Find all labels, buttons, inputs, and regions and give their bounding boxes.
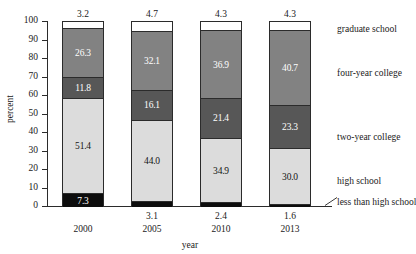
- x-axis-label-2000: 2000: [55, 224, 111, 234]
- y-axis-tick-label: 80: [14, 53, 38, 63]
- segment-two-year-college[interactable]: 23.3: [270, 105, 310, 148]
- y-axis-tick-label: 50: [14, 109, 38, 119]
- segment-two-year-college[interactable]: 11.8: [63, 77, 103, 99]
- segment-value-label: 40.7: [282, 63, 298, 73]
- bar-2000[interactable]: 26.311.851.47.3: [62, 21, 104, 206]
- bar-top-value-2010: 4.3: [200, 9, 242, 19]
- bar-bottom-value-2010: 2.4: [193, 211, 249, 221]
- segment-high-school[interactable]: 44.0: [132, 120, 172, 201]
- bar-top-value-2005: 4.7: [131, 9, 173, 19]
- segment-value-label: 30.0: [282, 172, 298, 182]
- y-axis-tick-label: 10: [14, 183, 38, 193]
- y-axis-tick-label: 100: [14, 16, 38, 26]
- segment-high-school[interactable]: 30.0: [270, 148, 310, 204]
- segment-value-label: 32.1: [144, 56, 160, 66]
- y-axis-tick: [42, 132, 48, 133]
- x-axis-label-2010: 2010: [193, 224, 249, 234]
- y-axis-tick-label: 30: [14, 146, 38, 156]
- y-axis-tick: [42, 21, 48, 22]
- segment-value-label: 7.3: [77, 196, 88, 206]
- bar-2010[interactable]: 36.921.434.9: [200, 21, 242, 206]
- segment-value-label: 23.3: [282, 122, 298, 132]
- segment-four-year-college[interactable]: 32.1: [132, 31, 172, 90]
- y-axis-tick-label: 0: [14, 201, 38, 211]
- y-axis-tick: [42, 188, 48, 189]
- y-axis-tick: [42, 151, 48, 152]
- segment-value-label: 16.1: [144, 100, 160, 110]
- x-axis-label-2005: 2005: [124, 224, 180, 234]
- y-axis-tick-label: 90: [14, 35, 38, 45]
- segment-four-year-college[interactable]: 26.3: [63, 28, 103, 77]
- y-axis-tick-label: 60: [14, 90, 38, 100]
- segment-high-school[interactable]: 51.4: [63, 98, 103, 193]
- chart-title: [70, 0, 320, 1]
- segment-two-year-college[interactable]: 16.1: [132, 90, 172, 120]
- segment-value-label: 51.4: [75, 141, 91, 151]
- category-label-high-school: high school: [337, 176, 381, 187]
- category-label-less-than-high-school: less than high school: [337, 197, 416, 208]
- y-axis-tick: [42, 40, 48, 41]
- segment-value-label: 34.9: [213, 166, 229, 176]
- bar-top-value-2013: 4.3: [269, 9, 311, 19]
- segment-value-label: 36.9: [213, 60, 229, 70]
- y-axis-tick: [42, 169, 48, 170]
- y-axis-tick: [42, 77, 48, 78]
- y-axis-tick: [42, 58, 48, 59]
- segment-less-than-high-school[interactable]: [132, 201, 172, 207]
- segment-value-label: 11.8: [75, 83, 90, 93]
- bar-2013[interactable]: 40.723.330.0: [269, 21, 311, 206]
- segment-value-label: 44.0: [144, 156, 160, 166]
- y-axis-tick: [42, 206, 48, 207]
- bar-top-value-2000: 3.2: [62, 9, 104, 19]
- segment-less-than-high-school[interactable]: [201, 202, 241, 206]
- segment-graduate-school[interactable]: [132, 22, 172, 31]
- bar-bottom-value-2013: 1.6: [262, 211, 318, 221]
- bar-2005[interactable]: 32.116.144.0: [131, 21, 173, 206]
- segment-less-than-high-school[interactable]: [270, 204, 310, 207]
- x-axis-title: year: [130, 240, 250, 250]
- segment-four-year-college[interactable]: 36.9: [201, 30, 241, 98]
- segment-graduate-school[interactable]: [270, 22, 310, 30]
- bar-bottom-value-2005: 3.1: [124, 211, 180, 221]
- segment-high-school[interactable]: 34.9: [201, 138, 241, 203]
- y-axis-tick: [42, 114, 48, 115]
- segment-graduate-school[interactable]: [201, 22, 241, 30]
- category-label-four-year-college: four-year college: [337, 68, 402, 79]
- segment-value-label: 21.4: [213, 113, 229, 123]
- x-axis-label-2013: 2013: [262, 224, 318, 234]
- y-axis-tick-label: 40: [14, 127, 38, 137]
- segment-four-year-college[interactable]: 40.7: [270, 30, 310, 105]
- y-axis-tick-label: 20: [14, 164, 38, 174]
- category-label-graduate-school: graduate school: [337, 24, 397, 35]
- y-axis-tick: [42, 95, 48, 96]
- category-label-two-year-college: two-year college: [337, 132, 401, 143]
- y-axis-title: percent: [5, 81, 15, 137]
- y-axis-tick-label: 70: [14, 72, 38, 82]
- segment-less-than-high-school[interactable]: 7.3: [63, 193, 103, 207]
- segment-two-year-college[interactable]: 21.4: [201, 98, 241, 138]
- segment-value-label: 26.3: [75, 48, 91, 58]
